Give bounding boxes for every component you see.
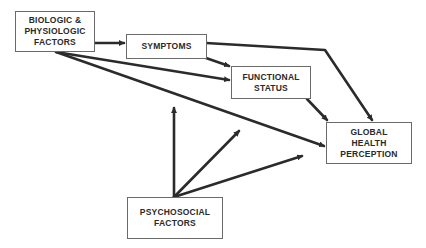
node-functional-status: FUNCTIONAL STATUS [231,66,311,99]
node-label-line: BIOLOGIC & [24,15,85,26]
node-label-line: PHYSIOLOGIC [24,26,85,37]
path-diagram: BIOLOGIC & PHYSIOLOGIC FACTORS SYMPTOMS … [0,0,426,248]
node-label-line: PERCEPTION [340,149,397,160]
node-global-health-perception: GLOBAL HEALTH PERCEPTION [326,122,412,164]
node-label-line: FUNCTIONAL [242,72,299,83]
arrow-symptoms-to-functional [206,58,229,66]
node-label-line: FACTORS [24,37,85,48]
node-label-line: STATUS [242,83,299,94]
node-label-line: GLOBAL [340,127,397,138]
node-psychosocial-factors: PSYCHOSOCIAL FACTORS [127,197,223,239]
node-biologic-physiologic-factors: BIOLOGIC & PHYSIOLOGIC FACTORS [15,11,95,52]
node-label-line: PSYCHOSOCIAL [140,207,210,218]
node-label-line: SYMPTOMS [141,41,191,52]
node-symptoms: SYMPTOMS [126,34,207,59]
node-label-line: FACTORS [140,218,210,229]
node-label-line: HEALTH [340,138,397,149]
arrow-functional-to-global [307,99,327,120]
